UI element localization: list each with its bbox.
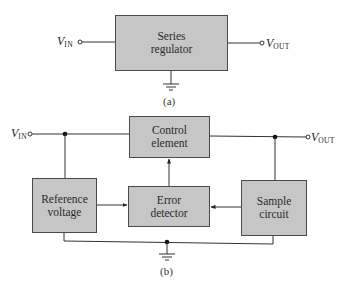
- block-label-line2: element: [151, 137, 187, 150]
- block-label-line1: Control: [151, 124, 187, 137]
- block-label-line1: Series: [151, 30, 193, 43]
- vout-label-b: VOUT: [311, 130, 335, 145]
- vin-label-b: VIN: [11, 126, 27, 141]
- ground-icon-a: [163, 84, 179, 90]
- block-label-line2: circuit: [257, 208, 292, 221]
- vout-terminal-b: [306, 135, 310, 139]
- caption-b: (b): [160, 265, 173, 277]
- vin-subscript: IN: [64, 40, 73, 49]
- control-element-block: Control element: [129, 116, 210, 158]
- vout-terminal-a: [260, 41, 264, 45]
- block-label-line2: detector: [150, 207, 187, 220]
- caption-a: (a): [163, 95, 175, 107]
- vout-label-a: VOUT: [266, 36, 290, 51]
- block-label-line1: Sample: [257, 195, 292, 208]
- vout-subscript: OUT: [273, 42, 289, 51]
- block-label-line1: Error: [150, 194, 187, 207]
- vout-subscript: OUT: [318, 136, 334, 145]
- reference-voltage-block: Reference voltage: [32, 178, 97, 233]
- control-to-vout-wire: [210, 136, 306, 137]
- vin-terminal-a: [78, 40, 82, 44]
- error-detector-block: Error detector: [128, 186, 210, 227]
- block-label-line1: Reference: [41, 193, 88, 206]
- vin-subscript: IN: [18, 132, 27, 141]
- block-label-line2: voltage: [41, 206, 88, 219]
- ground-icon-b: [159, 254, 175, 260]
- vin-label-a: VIN: [57, 34, 73, 49]
- block-label-line2: regulator: [151, 43, 193, 56]
- vin-terminal-b: [28, 132, 32, 136]
- series-regulator-block: Series regulator: [115, 15, 228, 71]
- sample-circuit-block: Sample circuit: [241, 180, 307, 236]
